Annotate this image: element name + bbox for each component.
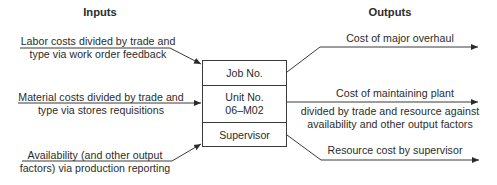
outputs-header: Outputs bbox=[355, 6, 425, 18]
output-label-supervisor-cost: Resource cost by supervisor bbox=[310, 144, 480, 157]
output-label-divided-line2: availability and other output factors bbox=[290, 118, 490, 131]
job-record-box: Job No. Unit No. 06–M02 Supervisor bbox=[202, 60, 287, 147]
job-no-label: Job No. bbox=[226, 67, 263, 80]
input-label-labor: Labor costs divided by trade and type vi… bbox=[8, 35, 188, 60]
box-cell-supervisor: Supervisor bbox=[203, 122, 286, 147]
input-label-availability-line1: Availability (and other output bbox=[10, 149, 180, 162]
input-output-diagram: Inputs Outputs Labor costs divided by tr… bbox=[0, 0, 497, 185]
unit-no-label: Unit No. bbox=[225, 91, 263, 104]
input-label-labor-line2: type via work order feedback bbox=[8, 48, 188, 61]
input-label-availability: Availability (and other output factors) … bbox=[10, 149, 180, 174]
input-label-labor-line1: Labor costs divided by trade and bbox=[8, 35, 188, 48]
input-label-availability-line2: factors) via production reporting bbox=[10, 162, 180, 175]
output-label-maintaining: Cost of maintaining plant bbox=[315, 87, 475, 100]
inputs-header: Inputs bbox=[70, 6, 130, 18]
output-label-divided-by-trade: divided by trade and resource against av… bbox=[290, 105, 490, 130]
supervisor-label: Supervisor bbox=[219, 129, 270, 142]
output-arrow-overhaul bbox=[287, 47, 478, 72]
unit-no-value: 06–M02 bbox=[225, 104, 263, 117]
box-cell-job-no: Job No. bbox=[203, 61, 286, 85]
output-label-overhaul: Cost of major overhaul bbox=[330, 32, 470, 45]
input-label-material-line1: Material costs divided by trade and bbox=[6, 91, 196, 104]
input-label-material: Material costs divided by trade and type… bbox=[6, 91, 196, 116]
output-label-divided-line1: divided by trade and resource against bbox=[290, 105, 490, 118]
box-cell-unit-no: Unit No. 06–M02 bbox=[203, 85, 286, 122]
input-label-material-line2: type via stores requisitions bbox=[6, 104, 196, 117]
